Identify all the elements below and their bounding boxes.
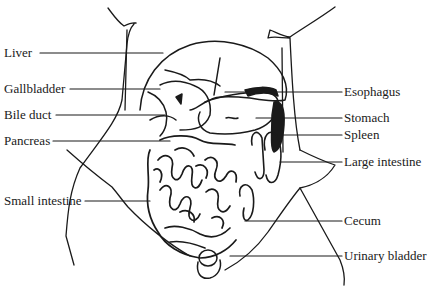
label-pancreas: Pancreas	[4, 134, 50, 148]
small-intestine-shape	[147, 136, 236, 258]
label-spleen: Spleen	[344, 128, 379, 142]
label-small-intestine: Small intestine	[4, 194, 82, 208]
label-gallbladder: Gallbladder	[4, 82, 65, 96]
label-cecum: Cecum	[344, 214, 381, 228]
label-urinary-bladder: Urinary bladder	[344, 249, 427, 263]
label-stomach: Stomach	[344, 111, 390, 125]
label-large-intestine: Large intestine	[344, 155, 421, 169]
label-esophagus: Esophagus	[344, 85, 400, 99]
label-bile-duct: Bile duct	[4, 108, 51, 122]
label-liver: Liver	[4, 46, 32, 60]
body-outline	[66, 7, 344, 285]
